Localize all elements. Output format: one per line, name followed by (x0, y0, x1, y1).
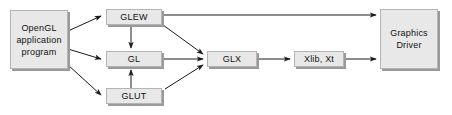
node-opengl-application-program[interactable]: OpenGL application program (10, 10, 68, 69)
node-graphics-driver[interactable]: Graphics Driver (380, 9, 438, 69)
node-glx[interactable]: GLX (207, 51, 257, 67)
node-glew[interactable]: GLEW (106, 9, 162, 25)
edge-glut-to-glx (165, 65, 203, 89)
edge-glew-to-glx (163, 25, 203, 54)
node-label: OpenGL application program (14, 22, 63, 58)
node-label: GLX (221, 54, 244, 65)
node-label: Graphics Driver (388, 27, 430, 51)
node-glut[interactable]: GLUT (106, 88, 162, 104)
edge-app-to-glut (68, 65, 101, 95)
node-label: GLEW (118, 12, 149, 23)
opengl-stack-diagram: OpenGL application program GLEW GL GLUT … (0, 0, 452, 115)
edge-app-to-gl (68, 49, 101, 59)
node-label: Xlib, Xt (302, 54, 336, 65)
node-xlib-xt[interactable]: Xlib, Xt (294, 51, 344, 67)
node-label: GL (126, 54, 142, 65)
node-gl[interactable]: GL (106, 51, 162, 67)
node-label: GLUT (120, 91, 149, 102)
edge-app-to-glew (68, 16, 101, 31)
